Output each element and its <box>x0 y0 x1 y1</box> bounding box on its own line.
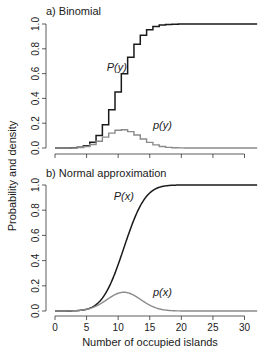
series-annotation: P(y) <box>107 61 128 73</box>
panel-a-title: a) Binomial <box>46 5 101 17</box>
panel-a-series: P(y)p(y) <box>55 24 257 148</box>
y-tick-label: 0.2 <box>30 116 41 130</box>
panel-a-axes: 0.00.20.40.60.81.0 <box>30 17 245 158</box>
panel-b-title: b) Normal approximation <box>46 167 166 179</box>
x-tick-label: 25 <box>207 322 219 333</box>
series-annotation: P(x) <box>114 190 134 202</box>
x-tick-label: 10 <box>113 322 125 333</box>
x-tick-label: 5 <box>84 322 90 333</box>
y-tick-label: 0.8 <box>30 41 41 55</box>
y-tick-label: 0.4 <box>30 91 41 105</box>
x-axis-label: Number of occupied islands <box>82 336 218 348</box>
panel-b-axes: 0.00.20.40.60.81.0051015202530 <box>30 178 250 333</box>
figure: a) Binomial b) Normal approximation Prob… <box>0 0 267 352</box>
y-tick-label: 0.8 <box>30 203 41 217</box>
x-tick-label: 15 <box>144 322 156 333</box>
y-tick-label: 0.6 <box>30 66 41 80</box>
y-tick-label: 0.0 <box>30 141 41 155</box>
y-tick-label: 1.0 <box>30 17 41 31</box>
y-tick-label: 0.6 <box>30 228 41 242</box>
series-annotation: p(x) <box>152 286 172 298</box>
y-tick-label: 1.0 <box>30 178 41 192</box>
y-tick-label: 0.4 <box>30 253 41 267</box>
x-tick-label: 0 <box>52 322 58 333</box>
panel-b-series: P(x)p(x) <box>55 185 257 311</box>
x-tick-label: 30 <box>239 322 251 333</box>
x-tick-label: 20 <box>176 322 188 333</box>
series-annotation: p(y) <box>152 119 172 131</box>
y-axis-label: Probability and density <box>6 120 18 231</box>
y-tick-label: 0.2 <box>30 278 41 292</box>
y-tick-label: 0.0 <box>30 304 41 318</box>
